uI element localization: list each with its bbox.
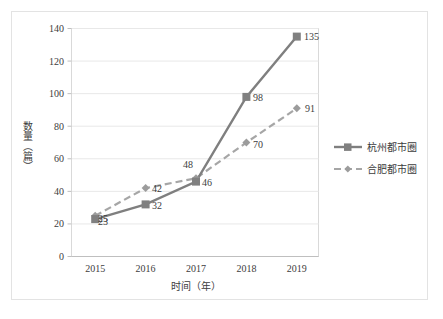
- data-label-hangzhou-2019: 135: [304, 31, 319, 42]
- x-tick-label-2016: 2016: [136, 263, 156, 274]
- legend-item-hefei[interactable]: 合肥都市圈: [334, 163, 417, 175]
- y-axis-ticks: [68, 29, 72, 257]
- data-label-hangzhou-2017: 46: [202, 177, 212, 188]
- marker-hangzhou-2016: [142, 200, 150, 208]
- x-tick-label-2018: 2018: [236, 263, 256, 274]
- y-tick-label-60: 60: [54, 153, 64, 164]
- marker-hangzhou-2017: [192, 178, 200, 186]
- legend-label-hefei: 合肥都市圈: [367, 163, 417, 175]
- y-tick-label-140: 140: [49, 23, 64, 34]
- data-label-hangzhou-2018: 98: [253, 92, 263, 103]
- data-label-hangzhou-2016: 32: [152, 200, 162, 211]
- y-tick-label-0: 0: [59, 251, 64, 262]
- chart-figure: 数量（篇） 140 120 100: [0, 0, 443, 319]
- chart-legend: 杭州都市圈 合肥都市圈: [334, 141, 417, 175]
- x-tick-label-2017: 2017: [186, 263, 206, 274]
- data-label-hefei-2016: 42: [152, 183, 162, 194]
- marker-hangzhou-2018: [242, 93, 250, 101]
- legend-marker-square-icon: [344, 143, 352, 151]
- plot-area: [72, 29, 319, 257]
- data-label-hangzhou-2015: 23: [98, 216, 108, 227]
- marker-hangzhou-2019: [293, 33, 301, 41]
- y-tick-label-20: 20: [54, 218, 64, 229]
- line-chart-plot: 140 120 100 80 60 40 20 0 2015 2016 2017…: [0, 0, 443, 319]
- y-tick-label-100: 100: [49, 88, 64, 99]
- legend-item-hangzhou[interactable]: 杭州都市圈: [334, 141, 417, 153]
- x-axis-title: 时间（年）: [171, 280, 221, 292]
- x-tick-label-2019: 2019: [287, 263, 307, 274]
- x-tick-label-2015: 2015: [85, 263, 105, 274]
- y-tick-label-40: 40: [54, 186, 64, 197]
- y-tick-label-80: 80: [54, 121, 64, 132]
- legend-marker-diamond-icon: [344, 165, 351, 172]
- data-label-hefei-2017: 48: [183, 159, 193, 170]
- y-tick-label-120: 120: [49, 56, 64, 67]
- data-label-hefei-2018: 70: [253, 139, 263, 150]
- data-label-hefei-2019: 91: [305, 103, 315, 114]
- legend-label-hangzhou: 杭州都市圈: [367, 141, 417, 153]
